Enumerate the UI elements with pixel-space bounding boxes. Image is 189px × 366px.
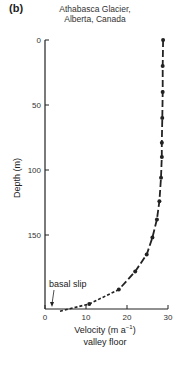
x-axis-sublabel: valley floor bbox=[83, 337, 126, 347]
data-point bbox=[145, 253, 149, 257]
y-tick-label: 50 bbox=[32, 101, 41, 110]
x-tick-label: 0 bbox=[43, 313, 48, 322]
data-point bbox=[157, 199, 161, 203]
y-tick-label: 150 bbox=[28, 231, 42, 240]
x-tick-label: 10 bbox=[82, 313, 91, 322]
data-point bbox=[155, 217, 159, 221]
data-point bbox=[150, 236, 154, 240]
data-markers bbox=[87, 38, 165, 306]
velocity-curve bbox=[119, 40, 163, 290]
data-point bbox=[161, 90, 165, 94]
data-point bbox=[161, 38, 165, 42]
basal-slip-arrow bbox=[52, 290, 54, 304]
basal-slip-label: basal slip bbox=[49, 279, 87, 289]
x-tick-label: 20 bbox=[123, 313, 132, 322]
y-tick-label: 100 bbox=[28, 166, 42, 175]
arrow-head-icon bbox=[50, 302, 54, 307]
data-point bbox=[160, 116, 164, 120]
data-point bbox=[117, 288, 121, 292]
y-axis-label: Depth (m) bbox=[12, 158, 22, 198]
data-point bbox=[133, 269, 137, 273]
data-point bbox=[87, 302, 91, 306]
data-point bbox=[160, 141, 164, 145]
velocity-depth-chart: 050100150 0102030 Depth (m) Velocity (m … bbox=[0, 0, 189, 366]
data-point bbox=[160, 155, 164, 159]
y-tick-label: 0 bbox=[37, 36, 42, 45]
x-axis-label: Velocity (m a−1) bbox=[74, 324, 135, 335]
velocity-curve-extrapolated bbox=[58, 290, 119, 312]
x-tick-label: 30 bbox=[164, 313, 173, 322]
y-ticks: 050100150 bbox=[28, 36, 49, 240]
data-point bbox=[159, 176, 163, 180]
data-point bbox=[161, 64, 165, 68]
x-ticks: 0102030 bbox=[43, 305, 173, 322]
